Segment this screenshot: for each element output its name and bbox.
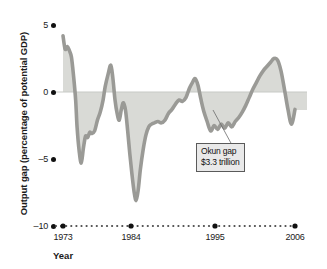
- plot-area: [0, 0, 327, 269]
- callout-line-2: $3.3 trillion: [201, 157, 240, 168]
- okun-gap-callout: Okun gap $3.3 trillion: [196, 143, 245, 172]
- chart-figure: Output gap (percentage of potential GDP)…: [0, 0, 327, 269]
- callout-line-1: Okun gap: [201, 146, 240, 157]
- x-axis-dotted-line: [55, 223, 298, 228]
- output-gap-line: [63, 36, 295, 201]
